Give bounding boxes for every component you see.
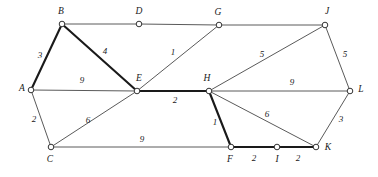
graph-edge-k-l bbox=[316, 91, 350, 147]
graph-edge-h-k bbox=[209, 91, 316, 147]
node-label-c: C bbox=[47, 154, 54, 164]
node-label-l: L bbox=[357, 84, 363, 94]
edge-weight-h-f: 1 bbox=[213, 117, 218, 127]
edges-layer bbox=[31, 24, 350, 147]
node-label-f: F bbox=[226, 154, 233, 164]
graph-figure: 3924691259165322 ABCDEFGHIJKL bbox=[0, 0, 378, 177]
edge-weight-i-k: 2 bbox=[296, 153, 301, 163]
graph-canvas: 3924691259165322 ABCDEFGHIJKL bbox=[0, 0, 378, 177]
graph-edge-d-g bbox=[139, 24, 219, 25]
edge-weight-c-e: 6 bbox=[86, 115, 91, 125]
edge-weight-b-e: 4 bbox=[103, 46, 108, 56]
edge-weight-f-i: 2 bbox=[252, 153, 257, 163]
node-label-j: J bbox=[325, 6, 330, 16]
graph-edge-a-e bbox=[31, 90, 137, 91]
edge-weight-h-j: 5 bbox=[260, 49, 265, 59]
graph-node-g[interactable] bbox=[216, 22, 222, 28]
graph-node-j[interactable] bbox=[322, 22, 328, 28]
graph-edge-b-e bbox=[62, 24, 137, 91]
graph-edge-c-e bbox=[51, 91, 137, 147]
edge-weight-h-k: 6 bbox=[265, 109, 270, 119]
graph-node-b[interactable] bbox=[59, 21, 65, 27]
graph-node-d[interactable] bbox=[136, 21, 142, 27]
edge-weights-layer: 3924691259165322 bbox=[32, 46, 348, 163]
node-label-b: B bbox=[58, 6, 64, 16]
edge-weight-h-l: 9 bbox=[290, 77, 295, 87]
graph-edge-a-b bbox=[31, 24, 62, 90]
graph-node-l[interactable] bbox=[347, 88, 353, 94]
edge-weight-c-f: 9 bbox=[140, 134, 145, 144]
graph-node-f[interactable] bbox=[228, 144, 234, 150]
edge-weight-e-g: 1 bbox=[171, 47, 176, 57]
edge-weight-a-c: 2 bbox=[32, 114, 37, 124]
edge-weight-e-h: 2 bbox=[173, 95, 178, 105]
node-label-e: E bbox=[135, 73, 142, 83]
graph-node-k[interactable] bbox=[313, 144, 319, 150]
edge-weight-k-l: 3 bbox=[338, 114, 344, 124]
node-label-h: H bbox=[203, 73, 212, 83]
edge-weight-j-l: 5 bbox=[343, 49, 348, 59]
graph-node-h[interactable] bbox=[206, 88, 212, 94]
graph-node-i[interactable] bbox=[274, 144, 280, 150]
graph-edge-h-j bbox=[209, 25, 325, 91]
graph-node-e[interactable] bbox=[134, 88, 140, 94]
node-label-i: I bbox=[274, 154, 279, 164]
node-label-a: A bbox=[18, 83, 25, 93]
node-label-d: D bbox=[135, 6, 143, 16]
graph-node-c[interactable] bbox=[48, 144, 54, 150]
edge-weight-a-e: 9 bbox=[80, 75, 85, 85]
node-label-g: G bbox=[215, 7, 222, 17]
edge-weight-a-b: 3 bbox=[37, 50, 43, 60]
node-label-k: K bbox=[324, 142, 332, 152]
graph-node-a[interactable] bbox=[28, 87, 34, 93]
